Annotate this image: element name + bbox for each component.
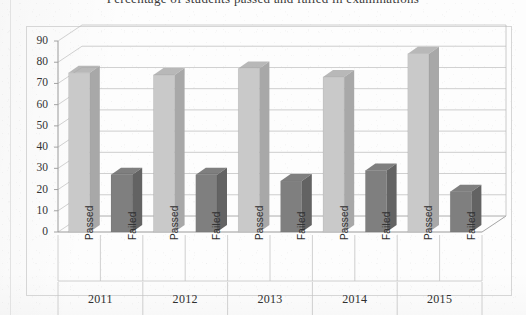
x-axis-category-label: Failed [127, 212, 138, 240]
x-axis-category-label: Passed [169, 205, 180, 240]
x-axis-category-label: Passed [254, 205, 265, 240]
x-axis-category-label: Passed [84, 205, 95, 240]
x-axis-group-label: 2014 [312, 292, 397, 307]
x-axis-category-label: Failed [211, 212, 222, 240]
y-axis-label: 50 [22, 120, 48, 132]
x-axis-group-label: 2011 [58, 292, 143, 307]
chart-title-cutoff: Percentage of students passed and failed… [0, 0, 526, 7]
y-axis-label: 40 [22, 141, 48, 153]
chart-border [26, 26, 512, 296]
y-axis-label: 20 [22, 184, 48, 196]
y-axis-label: 70 [22, 77, 48, 89]
x-axis-group-label: 2015 [397, 292, 482, 307]
x-axis-category-label: Passed [423, 205, 434, 240]
x-axis-category-label: Failed [296, 212, 307, 240]
y-axis-label: 0 [22, 226, 48, 238]
y-axis-label: 30 [22, 162, 48, 174]
y-axis-label: 80 [22, 56, 48, 68]
y-axis-label: 10 [22, 205, 48, 217]
x-axis-group-label: 2013 [228, 292, 313, 307]
x-axis-category-label: Passed [339, 205, 350, 240]
x-axis-group-label: 2012 [143, 292, 228, 307]
page-margin-rule [10, 0, 11, 315]
x-axis-category-label: Failed [466, 212, 477, 240]
y-axis-label: 60 [22, 99, 48, 111]
x-axis-category-label: Failed [381, 212, 392, 240]
scanned-page: Percentage of students passed and failed… [0, 0, 526, 315]
y-axis-label: 90 [22, 35, 48, 47]
